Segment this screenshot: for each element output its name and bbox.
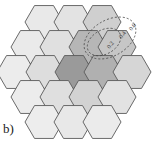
panel-label: b) bbox=[3, 122, 14, 135]
hex-contour-diagram: 0.20.40.6 bbox=[0, 0, 152, 147]
figure-panel-b: 0.20.40.6 b) bbox=[0, 0, 152, 147]
